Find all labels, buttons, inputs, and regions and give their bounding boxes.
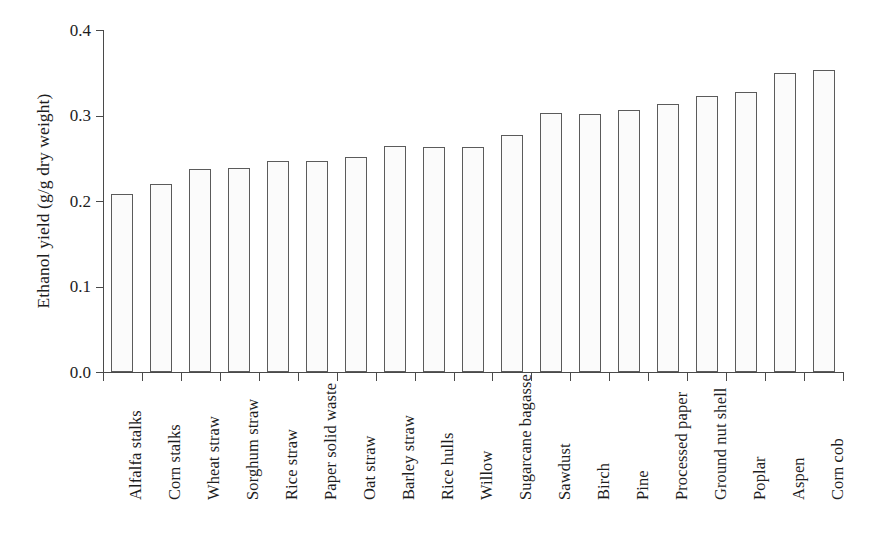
x-axis-category-label: Aspen xyxy=(791,457,808,500)
y-axis-title: Ethanol yield (g/g dry weight) xyxy=(30,30,56,372)
x-axis-category-label: Willow xyxy=(479,451,496,500)
x-axis-category-label: Birch xyxy=(596,463,613,500)
y-axis-tick-label: 0.4 xyxy=(70,21,91,41)
x-axis-category-label: Processed paper xyxy=(674,392,691,500)
x-axis-category-label: Oat straw xyxy=(362,435,379,500)
y-axis-tick: 0.0 xyxy=(96,372,103,373)
y-axis-tick: 0.4 xyxy=(96,30,103,31)
x-axis-category-label: Sawdust xyxy=(557,443,574,500)
x-axis-category-label: Wheat straw xyxy=(206,416,223,500)
x-axis-category-label: Ground nut shell xyxy=(713,387,730,500)
x-axis-category-label: Poplar xyxy=(752,456,769,500)
y-axis-tick-label: 0.3 xyxy=(70,106,91,126)
x-axis-category-label: Pine xyxy=(635,470,652,500)
x-axis-category-label: Sorghum straw xyxy=(245,399,262,500)
x-axis-category-label: Corn stalks xyxy=(167,424,184,500)
x-axis-category-labels: Alfalfa stalksCorn stalksWheat strawSorg… xyxy=(103,0,844,555)
x-axis-category-label: Barley straw xyxy=(401,415,418,500)
x-axis-category-label: Paper solid waste xyxy=(323,383,340,500)
bar-chart-figure: Ethanol yield (g/g dry weight) 0.00.10.2… xyxy=(0,0,889,555)
y-axis-tick-label: 0.1 xyxy=(70,277,91,297)
y-axis-tick-label: 0.0 xyxy=(70,363,91,383)
y-axis-tick: 0.3 xyxy=(96,116,103,117)
x-axis-category-label: Rice hulls xyxy=(440,433,457,500)
y-axis-tick: 0.2 xyxy=(96,201,103,202)
x-axis-category-label: Sugarcane bagasse xyxy=(518,374,535,500)
y-axis-tick-label: 0.2 xyxy=(70,192,91,212)
x-axis-category-label: Alfalfa stalks xyxy=(128,410,145,500)
y-axis-tick: 0.1 xyxy=(96,287,103,288)
x-axis-category-label: Rice straw xyxy=(284,429,301,500)
x-axis-category-label: Corn cob xyxy=(830,438,847,500)
